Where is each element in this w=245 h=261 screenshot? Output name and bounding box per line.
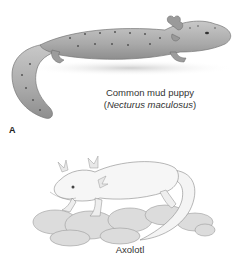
- axolotl-caption: Axolotl: [100, 244, 160, 256]
- axolotl-illustration: [0, 130, 245, 261]
- mudpuppy-panel: Common mud puppy (Necturus maculosus) A: [0, 0, 245, 130]
- mudpuppy-scientific-name: (Necturus maculosus): [70, 99, 230, 111]
- mudpuppy-common-name: Common mud puppy: [70, 87, 230, 99]
- mudpuppy-caption: Common mud puppy (Necturus maculosus): [70, 87, 230, 111]
- axolotl-panel: Axolotl: [0, 130, 245, 261]
